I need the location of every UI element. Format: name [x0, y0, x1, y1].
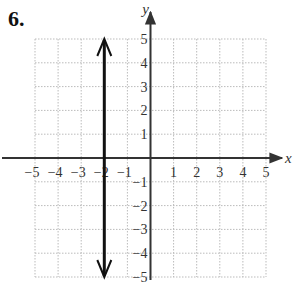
y-tick-label: −5: [133, 270, 148, 284]
y-tick-label: −2: [133, 199, 148, 214]
y-tick-label: 4: [141, 56, 148, 71]
x-tick-label: −4: [48, 165, 63, 180]
y-tick-label: −4: [133, 246, 148, 261]
y-tick-label: 5: [141, 32, 148, 47]
y-tick-label: 2: [141, 103, 148, 118]
y-tick-label: 1: [141, 127, 148, 142]
x-tick-label: −3: [71, 165, 86, 180]
y-axis-label: y: [140, 1, 149, 17]
coordinate-plane: xy −5−4−3−2−11234554321−1−2−3−4−5: [0, 0, 302, 284]
x-tick-label: 5: [263, 165, 270, 180]
x-tick-label: 3: [216, 165, 223, 180]
x-tick-label: 2: [193, 165, 200, 180]
x-tick-label: 4: [239, 165, 246, 180]
y-tick-label: 3: [141, 80, 148, 95]
y-tick-label: −3: [133, 222, 148, 237]
x-tick-label: −5: [25, 165, 40, 180]
x-tick-label: 1: [170, 165, 177, 180]
x-axis-label: x: [284, 150, 292, 166]
y-tick-label: −1: [133, 175, 148, 190]
x-tick-label: −2: [94, 165, 109, 180]
x-tick-label: −1: [117, 165, 132, 180]
